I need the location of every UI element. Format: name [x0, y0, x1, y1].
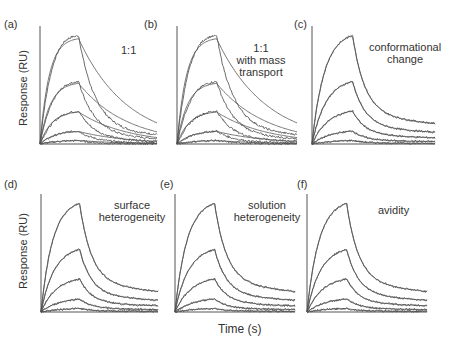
panel-label-f: (f)	[297, 178, 307, 190]
x-axis-label: Time (s)	[218, 323, 262, 335]
model-label-e-line2: heterogeneity	[227, 211, 307, 223]
model-label-c-line1: conformational	[362, 41, 448, 53]
model-label-a: 1:1	[121, 44, 136, 56]
model-label-d-line2: heterogeneity	[92, 211, 172, 223]
panel-label-b: (b)	[144, 18, 157, 30]
panel-label-e: (e)	[160, 178, 173, 190]
model-label-e-line1: solution	[227, 199, 307, 211]
model-label-b-line2: with mass	[226, 54, 296, 66]
panel-label-c: (c)	[294, 18, 307, 30]
panel-label-a: (a)	[4, 18, 17, 30]
panel-label-d: (d)	[4, 178, 17, 190]
model-label-b-line1: 1:1	[226, 42, 296, 54]
model-label-f: avidity	[378, 204, 409, 216]
y-axis-label-top: Response (RU)	[17, 43, 29, 133]
y-axis-label-bottom: Response (RU)	[17, 206, 29, 296]
model-label-b-line3: transport	[226, 66, 296, 78]
model-label-c-line2: change	[362, 53, 448, 65]
model-label-d-line1: surface	[92, 199, 172, 211]
